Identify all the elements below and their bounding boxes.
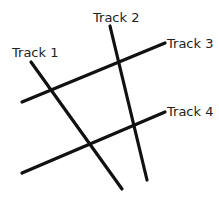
track-3-label: Track 3 [166, 36, 213, 51]
track-2-line [110, 26, 147, 180]
track-1-label: Track 1 [11, 45, 58, 60]
track-4-label: Track 4 [166, 104, 213, 119]
track-2-label: Track 2 [92, 10, 139, 25]
track-diagram: Track 1 Track 2 Track 3 Track 4 [0, 0, 219, 200]
